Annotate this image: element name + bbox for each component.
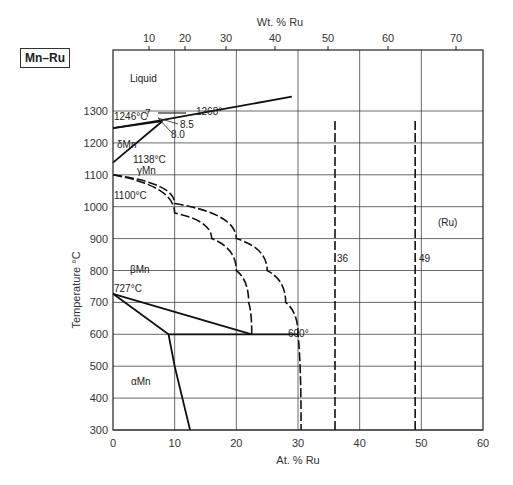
x2-tick-label: 20 xyxy=(179,32,191,44)
annotations: LiquidδMnγMnβMnαMn(Ru)1246°C71268°8.58.0… xyxy=(114,73,457,387)
annotation-label: 7 xyxy=(145,108,151,119)
boundary-alpha-solvus xyxy=(113,294,190,430)
x2-tick-label: 70 xyxy=(450,32,462,44)
y-tick-label: 1200 xyxy=(84,137,108,149)
phase-diagram: LiquidδMnγMnβMnαMn(Ru)1246°C71268°8.58.0… xyxy=(0,0,513,485)
annotation-label: 727°C xyxy=(114,283,142,294)
x-tick-label: 30 xyxy=(292,437,304,449)
x2-tick-label: 10 xyxy=(143,32,155,44)
annotation-label: 1268° xyxy=(196,106,222,117)
annotation-label: 8.0 xyxy=(171,129,185,140)
annotation-label: (Ru) xyxy=(438,217,457,228)
annotation-label: γMn xyxy=(137,165,156,176)
y-tick-label: 700 xyxy=(90,296,108,308)
y-axis-title: Temperature °C xyxy=(70,251,82,328)
x-tick-label: 60 xyxy=(477,437,489,449)
annotation-label: Liquid xyxy=(130,73,157,84)
x-tick-label: 0 xyxy=(110,437,116,449)
x-tick-label: 10 xyxy=(169,437,181,449)
x-axis-title: At. % Ru xyxy=(276,454,319,466)
annotation-label: 36 xyxy=(337,253,349,264)
boundary-beta-alpha xyxy=(113,294,252,335)
annotation-label: δMn xyxy=(117,139,136,150)
annotation-label: 1246°C xyxy=(114,111,147,122)
x2-tick-label: 40 xyxy=(269,32,281,44)
x-tick-label: 20 xyxy=(230,437,242,449)
y-tick-label: 1000 xyxy=(84,201,108,213)
annotation-label: 1138°C xyxy=(133,154,166,165)
annotation-label: βMn xyxy=(130,264,150,275)
y-tick-label: 500 xyxy=(90,360,108,372)
x2-tick-label: 30 xyxy=(220,32,232,44)
annotation-label: αMn xyxy=(131,376,151,387)
phase-boundaries xyxy=(113,97,415,430)
y-tick-label: 400 xyxy=(90,392,108,404)
x-tick-label: 50 xyxy=(415,437,427,449)
x-tick-label: 40 xyxy=(354,437,366,449)
grid xyxy=(113,50,483,430)
y-tick-label: 600 xyxy=(90,328,108,340)
x2-tick-label: 50 xyxy=(322,32,334,44)
annotation-label: 600° xyxy=(288,328,309,339)
annotation-label: 49 xyxy=(419,253,431,264)
x2-tick-label: 60 xyxy=(382,32,394,44)
y-tick-label: 800 xyxy=(90,265,108,277)
annotation-label: 1100°C xyxy=(114,190,147,201)
y-tick-label: 1300 xyxy=(84,105,108,117)
y-tick-label: 900 xyxy=(90,233,108,245)
y-tick-label: 1100 xyxy=(84,169,108,181)
y-tick-label: 300 xyxy=(90,424,108,436)
x2-axis-title: Wt. % Ru xyxy=(257,16,303,28)
